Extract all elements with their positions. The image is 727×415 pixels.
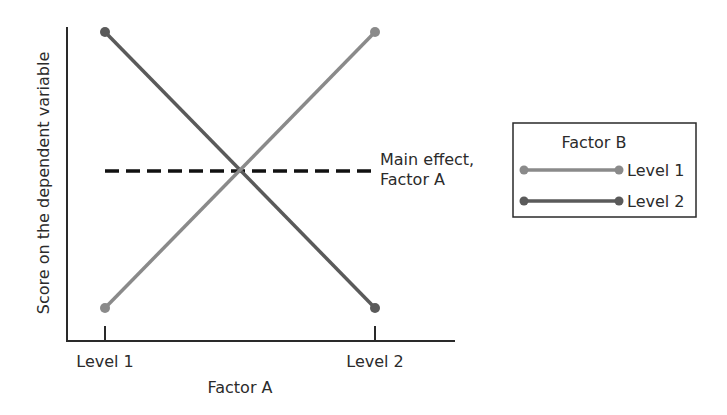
legend-swatch-level-2-start bbox=[520, 197, 529, 206]
series-level-2-point-2 bbox=[370, 303, 380, 313]
legend: Factor B Level 1 Level 2 bbox=[513, 123, 696, 217]
x-tick-label-level-2: Level 2 bbox=[346, 352, 404, 371]
legend-title: Factor B bbox=[561, 133, 626, 152]
legend-swatch-level-1-end bbox=[615, 166, 624, 175]
legend-label-level-2: Level 2 bbox=[627, 192, 685, 211]
main-effect-label-line2: Factor A bbox=[380, 170, 445, 189]
x-axis-title: Factor A bbox=[207, 378, 272, 397]
y-axis-title: Score on the dependent variable bbox=[34, 52, 53, 314]
interaction-plot: Level 1 Level 2 Factor A Score on the de… bbox=[0, 0, 727, 415]
series-level-1-point-2 bbox=[370, 27, 380, 37]
series-level-1-point-1 bbox=[100, 303, 110, 313]
legend-label-level-1: Level 1 bbox=[627, 161, 685, 180]
series-level-2-point-1 bbox=[100, 27, 110, 37]
x-tick-label-level-1: Level 1 bbox=[76, 352, 134, 371]
main-effect-label-line1: Main effect, bbox=[380, 150, 474, 169]
legend-swatch-level-1-start bbox=[520, 166, 529, 175]
legend-swatch-level-2-end bbox=[615, 197, 624, 206]
